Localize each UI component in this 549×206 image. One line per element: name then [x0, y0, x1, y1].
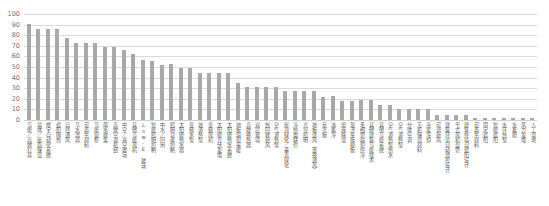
- bar[interactable]: [454, 115, 458, 120]
- bar[interactable]: [198, 73, 202, 120]
- y-tick-label: 0: [16, 117, 20, 124]
- x-axis-tick-label: 地源热泵: [197, 122, 202, 142]
- bar[interactable]: [492, 118, 496, 120]
- bar-slot: [376, 14, 386, 120]
- x-label-slot: 冰蓄冷: [328, 122, 338, 206]
- bar[interactable]: [141, 60, 145, 120]
- bar[interactable]: [169, 64, 173, 120]
- x-label-slot: 建筑外墙自遮阳设计: [461, 122, 471, 206]
- x-axis-tick-label: 固定遮阳: [482, 122, 487, 142]
- x-axis-tick-label: 高效换热器: [245, 122, 250, 147]
- bar[interactable]: [131, 54, 135, 120]
- bar[interactable]: [46, 29, 50, 120]
- y-tick-label: 30: [12, 85, 20, 92]
- bar[interactable]: [473, 118, 477, 120]
- x-axis-tick-label: 地板送风（置换通风）: [311, 122, 316, 172]
- bar[interactable]: [464, 115, 468, 120]
- bar[interactable]: [483, 118, 487, 120]
- x-label-slot: 地板送风（置换通风）: [309, 122, 319, 206]
- x-axis-tick-label: 其他节能风机: [131, 122, 136, 152]
- bar[interactable]: [426, 109, 430, 120]
- x-axis-tick-label: 墙体／屋面保温: [36, 122, 41, 157]
- bar[interactable]: [511, 118, 515, 120]
- bar[interactable]: [502, 118, 506, 120]
- x-axis-tick-label: 智能照明控制: [150, 122, 155, 152]
- x-axis-tick-label: 可再生材料: [83, 122, 88, 147]
- bar[interactable]: [416, 109, 420, 120]
- x-label-slot: 智能遮阳: [490, 122, 500, 206]
- bar[interactable]: [245, 87, 249, 120]
- bar[interactable]: [331, 96, 335, 120]
- x-axis-tick-label: 其他建筑节能技术: [368, 122, 373, 162]
- x-axis-tick-label: 太阳能热水系统: [226, 122, 231, 157]
- x-label-slot: 人工湿地: [528, 122, 538, 206]
- bar[interactable]: [293, 91, 297, 120]
- bar[interactable]: [521, 118, 525, 120]
- bar-slot: [433, 14, 443, 120]
- bar[interactable]: [274, 87, 278, 120]
- x-axis-tick-label: 可再生材料: [473, 122, 478, 147]
- bar[interactable]: [340, 101, 344, 120]
- bar[interactable]: [27, 24, 31, 120]
- bar[interactable]: [65, 38, 69, 120]
- x-label-slot: 可调新风: [433, 122, 443, 206]
- bar-slot: [91, 14, 101, 120]
- y-tick-label: 20: [12, 96, 20, 103]
- bar[interactable]: [321, 97, 325, 120]
- x-label-slot: 冷热电联供: [290, 122, 300, 206]
- x-axis-tick-label: 水环热泵: [501, 122, 506, 142]
- x-axis-tick-label: 热回收新风: [264, 122, 269, 147]
- x-axis-tick-label: 反光板: [321, 122, 326, 137]
- bar[interactable]: [236, 83, 240, 120]
- bar[interactable]: [36, 29, 40, 120]
- bar[interactable]: [445, 115, 449, 120]
- bar[interactable]: [179, 68, 183, 120]
- x-axis-tick-label: 中空／真空玻璃: [121, 122, 126, 157]
- bar[interactable]: [207, 73, 211, 120]
- bar[interactable]: [302, 91, 306, 120]
- bar[interactable]: [103, 47, 107, 120]
- bar[interactable]: [388, 105, 392, 120]
- bar-slot: [395, 14, 405, 120]
- bar[interactable]: [283, 91, 287, 120]
- bar[interactable]: [407, 109, 411, 120]
- bar[interactable]: [226, 73, 230, 120]
- bar[interactable]: [255, 87, 259, 120]
- x-axis-tick-label: 太阳能热水器: [178, 122, 183, 152]
- bar[interactable]: [397, 109, 401, 120]
- x-label-slot: 水环热泵: [499, 122, 509, 206]
- bar-slot: [338, 14, 348, 120]
- bar[interactable]: [312, 91, 316, 120]
- bar[interactable]: [74, 43, 78, 120]
- bar[interactable]: [264, 87, 268, 120]
- bar[interactable]: [435, 115, 439, 120]
- x-label-slot: Low-E 玻璃: [138, 122, 148, 206]
- bar[interactable]: [84, 43, 88, 120]
- x-label-slot: 分体空调: [404, 122, 414, 206]
- bar[interactable]: [378, 105, 382, 120]
- y-tick-label: 100: [8, 11, 20, 18]
- bar[interactable]: [55, 29, 59, 120]
- bar-slot: [490, 14, 500, 120]
- bar[interactable]: [530, 118, 534, 120]
- bar-slot: [328, 14, 338, 120]
- y-tick-label: 90: [12, 21, 20, 28]
- x-axis-tick-label: 遮阳隔热: [55, 122, 60, 142]
- bar[interactable]: [122, 50, 126, 120]
- bar[interactable]: [217, 73, 221, 120]
- x-label-slot: 节水器具: [72, 122, 82, 206]
- bar[interactable]: [150, 61, 154, 120]
- bar[interactable]: [93, 43, 97, 120]
- bar-slot: [452, 14, 462, 120]
- bar[interactable]: [188, 68, 192, 120]
- bar[interactable]: [350, 101, 354, 120]
- bar-chart: 0102030405060708090100 节能／高效灯具墙体／屋面保温楼宇自…: [0, 0, 549, 206]
- bar[interactable]: [112, 47, 116, 120]
- bar[interactable]: [369, 100, 373, 120]
- bar[interactable]: [359, 100, 363, 120]
- bar[interactable]: [160, 65, 164, 120]
- x-axis-tick-label: 变频水泵: [188, 122, 193, 142]
- x-axis-tick-label: 建筑环境自动监控设计: [444, 122, 449, 172]
- x-label-slot: 自然通风: [62, 122, 72, 206]
- x-label-slot: 风力发电: [518, 122, 528, 206]
